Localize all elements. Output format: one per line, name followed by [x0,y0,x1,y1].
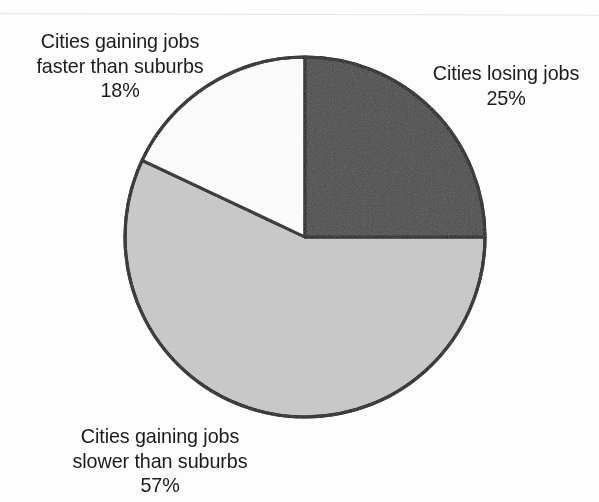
pie-label-cities-losing-jobs: Cities losing jobs 25% [425,61,587,110]
pie-label-line-1: Cities gaining jobs [68,424,252,449]
pie-label-value: 18% [28,78,212,103]
pie-label-line-1: Cities losing jobs [425,61,587,86]
pie-chart-figure: Cities gaining jobs faster than suburbs … [0,0,599,502]
pie-label-line-1: Cities gaining jobs [28,29,212,54]
pie-label-line-2: faster than suburbs [28,54,212,79]
pie-label-cities-gaining-jobs-faster: Cities gaining jobs faster than suburbs … [28,29,212,103]
pie-label-line-2: slower than suburbs [68,449,252,474]
pie-label-value: 25% [425,86,587,111]
pie-label-cities-gaining-jobs-slower: Cities gaining jobs slower than suburbs … [68,424,252,498]
pie-label-value: 57% [68,473,252,498]
